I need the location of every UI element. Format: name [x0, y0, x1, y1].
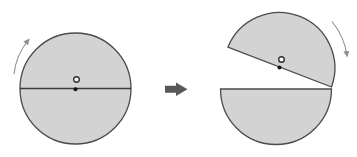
transform-arrow-icon — [165, 83, 188, 97]
rotation-arrow-right — [332, 22, 347, 56]
solid-disk-panel — [14, 33, 131, 144]
split-disk-panel — [221, 13, 348, 145]
pivot-ring-icon — [74, 77, 80, 83]
center-dot — [278, 65, 282, 69]
figure-svg — [0, 0, 357, 157]
bottom-half-disk — [221, 89, 332, 145]
top-half-disk — [228, 13, 335, 87]
rotating-disk-figure — [0, 0, 357, 157]
pivot-ring-icon — [279, 57, 285, 63]
center-dot — [74, 87, 78, 91]
